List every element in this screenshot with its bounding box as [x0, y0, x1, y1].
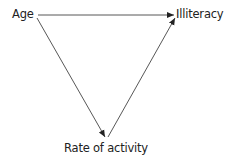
node-illiteracy: Illiteracy: [176, 7, 223, 21]
diagram-edges: [0, 0, 231, 160]
node-age: Age: [12, 7, 34, 21]
edge-age-to-rate: [37, 18, 105, 137]
node-rate-of-activity: Rate of activity: [64, 141, 148, 155]
edge-rate-to-illiteracy: [108, 18, 175, 137]
